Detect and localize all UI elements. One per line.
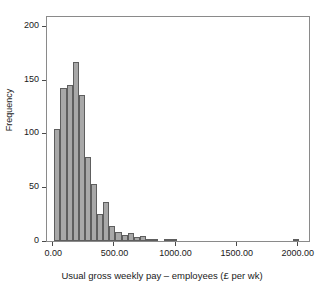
y-tick-label: 50 — [29, 181, 39, 191]
x-tick-label: 2000.00 — [281, 248, 314, 258]
x-tick-label: 500.00 — [101, 248, 129, 258]
x-tick-mark — [236, 242, 237, 246]
x-tick-mark — [113, 242, 114, 246]
y-tick-label: 150 — [24, 74, 39, 84]
x-tick-label: 1000.00 — [159, 248, 192, 258]
x-tick-mark — [175, 242, 176, 246]
x-tick-mark — [297, 242, 298, 246]
y-tick-label: 200 — [24, 20, 39, 30]
histogram-figure: Frequency 050100150200 0.00500.001000.00… — [0, 0, 324, 293]
x-axis-title: Usual gross weekly pay – employees (£ pe… — [0, 270, 324, 282]
x-axis-ticks: 0.00500.001000.001500.002000.00 — [46, 242, 310, 264]
x-tick-label: 0.00 — [45, 248, 63, 258]
histogram-bar — [170, 239, 176, 241]
plot-area — [46, 16, 310, 242]
y-tick-label: 0 — [34, 235, 39, 245]
bar-series — [47, 17, 309, 241]
histogram-bar — [293, 239, 299, 241]
y-axis-ticks: 050100150200 — [0, 16, 46, 242]
histogram-bar — [152, 239, 158, 241]
x-tick-mark — [52, 242, 53, 246]
y-tick-label: 100 — [24, 127, 39, 137]
x-tick-label: 1500.00 — [220, 248, 253, 258]
